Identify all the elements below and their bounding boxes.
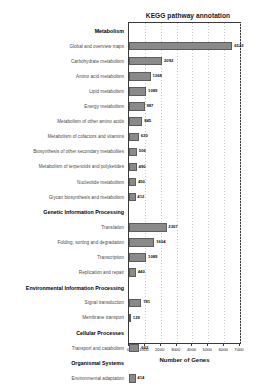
x-tick-label: 3000 [171, 347, 180, 352]
bar [129, 72, 151, 80]
category-label: Amino acid metabolism [76, 69, 124, 84]
category-label: Replication and repair [79, 265, 124, 280]
bar-value-label: 6522 [234, 43, 243, 48]
x-axis-label: Number of Genes [128, 357, 241, 363]
bar-container: 2092 [129, 54, 240, 69]
bar-row: Signal transduction781 [0, 295, 253, 310]
bar [129, 238, 154, 246]
x-tick-label: 6000 [218, 347, 227, 352]
group-label: Genetic Information Processing [43, 205, 124, 220]
bar-container: 6522 [129, 39, 240, 54]
x-tick-label: 1000 [139, 347, 148, 352]
bar-value-label: 781 [143, 299, 150, 304]
bar-container: 506 [129, 144, 240, 159]
bar-container: 1604 [129, 235, 240, 250]
bar-row: Biosynthesis of other secondary metaboli… [0, 144, 253, 159]
bar-value-label: 1089 [148, 254, 157, 259]
bar-row: Environmental adaptation414 [0, 371, 253, 386]
x-tick-label: 0 [127, 347, 129, 352]
bar-container: 987 [129, 99, 240, 114]
bar [129, 42, 232, 50]
bar [129, 314, 131, 322]
bar-row: Translation2367 [0, 220, 253, 235]
category-label: Energy metabolism [84, 99, 124, 114]
bar [129, 102, 145, 110]
group-label: Cellular Processes [76, 326, 124, 341]
chart-rows: MetabolismGlobal and overview maps6522Ca… [0, 22, 253, 344]
category-label: Membrane transport [82, 310, 124, 325]
bar-container: 630 [129, 129, 240, 144]
bar-container: 1368 [129, 69, 240, 84]
bar [129, 223, 167, 231]
bar [129, 178, 136, 186]
bar [129, 133, 139, 141]
category-label: Metabolism of cofactors and vitamins [48, 129, 124, 144]
bar [129, 299, 141, 307]
bar-container: 781 [129, 295, 240, 310]
category-label: Glycan biosynthesis and metabolism [49, 190, 124, 205]
bar [129, 163, 137, 171]
bar-container: 1089 [129, 84, 240, 99]
bar [129, 87, 146, 95]
bar-container: 845 [129, 114, 240, 129]
group-header-row: Metabolism [0, 24, 253, 39]
bar [129, 148, 137, 156]
category-label: Folding, sorting and degradation [57, 235, 124, 250]
bar-value-label: 630 [141, 133, 148, 138]
category-label: Environmental adaptation [71, 371, 124, 386]
bar-value-label: 1368 [152, 73, 161, 78]
category-label: Signal transduction [85, 295, 124, 310]
bar-row: Energy metabolism987 [0, 99, 253, 114]
x-tick-label: 7000 [234, 347, 243, 352]
group-header-row: Genetic Information Processing [0, 205, 253, 220]
bar-row: Membrane transport129 [0, 310, 253, 325]
category-label: Lipid metabolism [89, 84, 124, 99]
group-header-row: Environmental Information Processing [0, 280, 253, 295]
bar-value-label: 440 [138, 269, 145, 274]
bar-row: Metabolism of cofactors and vitamins630 [0, 129, 253, 144]
bar-value-label: 987 [146, 103, 153, 108]
bar [129, 193, 136, 201]
bar-value-label: 450 [138, 179, 145, 184]
bar-row: Folding, sorting and degradation1604 [0, 235, 253, 250]
bar-container: 440 [129, 265, 240, 280]
category-label: Transport and catabolism [72, 341, 124, 356]
category-label: Translation [101, 220, 124, 235]
x-tick-label: 2000 [155, 347, 164, 352]
category-label: Global and overview maps [69, 39, 124, 54]
bar [129, 117, 142, 125]
x-tick-label: 5000 [203, 347, 212, 352]
category-label: Carbohydrate metabolism [71, 54, 124, 69]
bar [129, 57, 162, 65]
page-title: KEGG pathway annotation [128, 12, 248, 19]
bar-value-label: 2092 [164, 58, 173, 63]
x-tick-label: 4000 [187, 347, 196, 352]
bar-row: Replication and repair440 [0, 265, 253, 280]
bar-container: 1089 [129, 250, 240, 265]
group-header-row: Cellular Processes [0, 326, 253, 341]
bar-value-label: 2367 [168, 224, 177, 229]
bar-row: Metabolism of terpenoids and polyketides… [0, 159, 253, 174]
bar-row: Glycan biosynthesis and metabolism412 [0, 190, 253, 205]
bar-container: 414 [129, 371, 240, 386]
bar-row: Carbohydrate metabolism2092 [0, 54, 253, 69]
bar-value-label: 845 [144, 118, 151, 123]
bar-value-label: 506 [139, 148, 146, 153]
bar-row: Amino acid metabolism1368 [0, 69, 253, 84]
category-label: Nucleotide metabolism [77, 175, 124, 190]
bar-row: Metabolism of other amino acids845 [0, 114, 253, 129]
bar-value-label: 129 [133, 315, 140, 320]
category-label: Biosynthesis of other secondary metaboli… [33, 144, 124, 159]
bar-container: 490 [129, 159, 240, 174]
bar-value-label: 414 [137, 375, 144, 380]
bar-value-label: 1604 [156, 239, 165, 244]
bar-container: 2367 [129, 220, 240, 235]
bar-container: 412 [129, 190, 240, 205]
bar-row: Transcription1089 [0, 250, 253, 265]
bar-row: Nucleotide metabolism450 [0, 175, 253, 190]
bar-row: Global and overview maps6522 [0, 39, 253, 54]
bar-container: 450 [129, 175, 240, 190]
bar [129, 268, 136, 276]
group-label: Organismal Systems [71, 356, 124, 371]
